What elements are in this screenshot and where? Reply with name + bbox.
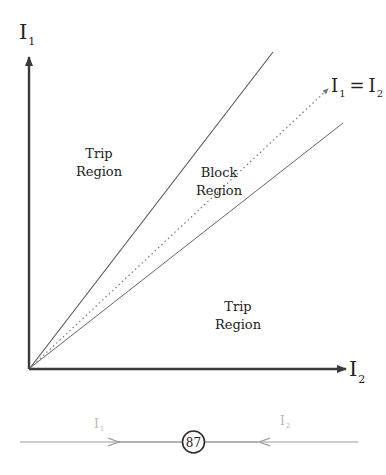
block-region-label: Block Region bbox=[196, 165, 243, 198]
y-axis-label: I1 bbox=[19, 20, 35, 48]
svg-text:Region: Region bbox=[76, 164, 123, 179]
svg-text:Trip: Trip bbox=[85, 146, 112, 161]
upper-trip-region-label: Trip Region bbox=[76, 146, 123, 179]
relay-left-current-label: I1 bbox=[94, 417, 104, 433]
relay-87-diagram: 87 I1 I2 bbox=[20, 414, 358, 453]
identity-line-label: I1=I2 bbox=[331, 75, 383, 99]
differential-relay-characteristic-diagram: I1 I2 I1=I2 Trip Region Block Region Tri… bbox=[0, 0, 386, 475]
svg-text:Region: Region bbox=[215, 317, 262, 332]
identity-dotted-line bbox=[30, 89, 328, 368]
svg-text:Block: Block bbox=[201, 165, 238, 180]
relay-number: 87 bbox=[186, 436, 201, 450]
relay-right-current-label: I2 bbox=[280, 414, 290, 430]
lower-slope-boundary-line bbox=[30, 123, 343, 368]
svg-text:Trip: Trip bbox=[224, 299, 251, 314]
svg-text:Region: Region bbox=[196, 183, 243, 198]
x-axis-label: I2 bbox=[349, 357, 365, 386]
lower-trip-region-label: Trip Region bbox=[215, 299, 262, 332]
